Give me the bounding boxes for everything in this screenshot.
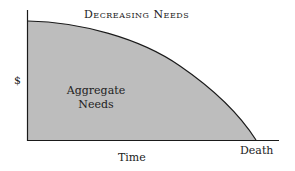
y-axis-label: $: [14, 74, 21, 87]
x-axis-label: Time: [118, 151, 146, 164]
chart-title: Decreasing Needs: [84, 8, 189, 21]
area-label-line2: Needs: [62, 98, 130, 112]
x-axis-end-label: Death: [240, 144, 273, 157]
aggregate-needs-area: [28, 21, 256, 140]
area-label-line1: Aggregate: [62, 84, 130, 98]
area-label: Aggregate Needs: [62, 84, 130, 112]
decreasing-needs-chart: Decreasing Needs $ Aggregate Needs Time …: [0, 0, 295, 171]
